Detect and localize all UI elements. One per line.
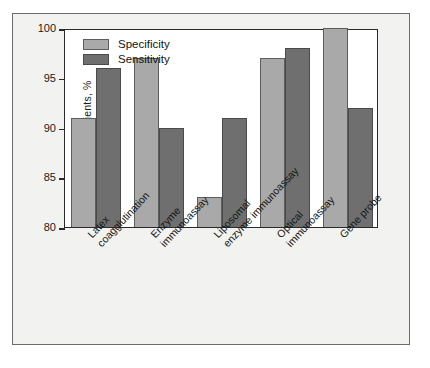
legend-label: Specificity bbox=[118, 38, 170, 50]
legend-swatch-specificity bbox=[83, 39, 109, 50]
legend-item-specificity: Specificity bbox=[83, 38, 170, 50]
legend-label: Sensitivity bbox=[118, 53, 170, 65]
y-tick-label: 100 bbox=[38, 22, 56, 34]
y-tick-label: 95 bbox=[44, 72, 56, 84]
y-tick-label: 90 bbox=[44, 122, 56, 134]
legend-item-sensitivity: Sensitivity bbox=[83, 53, 170, 65]
x-axis-labels: LatexcoagglutinationEnzymeimmunoassayLip… bbox=[64, 228, 378, 338]
chart-legend: SpecificitySensitivity bbox=[83, 38, 170, 68]
chart-figure: Patients, % 80859095100 SpecificitySensi… bbox=[0, 0, 430, 368]
legend-swatch-sensitivity bbox=[83, 54, 109, 65]
y-tick-label: 85 bbox=[44, 171, 56, 183]
y-tick-label: 80 bbox=[44, 221, 56, 233]
bar-specificity bbox=[71, 118, 96, 227]
